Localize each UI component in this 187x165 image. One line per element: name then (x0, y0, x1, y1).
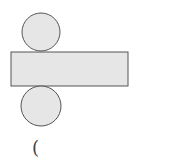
caption-text: ( (32, 139, 39, 157)
top-circle (22, 13, 60, 51)
cylinder-net-diagram (0, 0, 187, 165)
bottom-circle (21, 86, 61, 126)
lateral-rectangle (11, 52, 128, 86)
